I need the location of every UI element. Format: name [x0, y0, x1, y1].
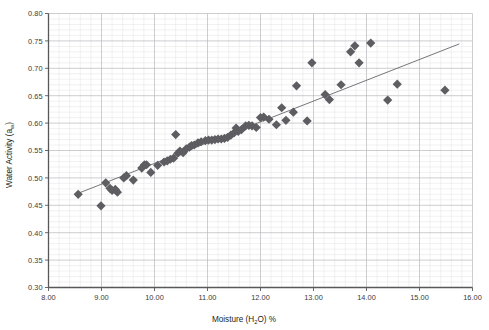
y-tick-label: 0.30: [28, 283, 42, 292]
y-tick-label: 0.40: [28, 229, 42, 238]
chart-canvas: 8.009.0010.0011.0012.0013.0014.0015.0016…: [0, 0, 489, 330]
x-tick-label: 8.00: [41, 293, 55, 302]
y-tick-label: 0.50: [28, 174, 42, 183]
x-tick-label: 13.00: [304, 293, 323, 302]
y-tick-label: 0.45: [28, 201, 42, 210]
x-tick-label: 9.00: [94, 293, 108, 302]
y-tick-label: 0.65: [28, 92, 42, 101]
y-tick-label: 0.35: [28, 256, 42, 265]
x-tick-label: 12.00: [251, 293, 270, 302]
x-axis-title: Moisture (H2O) %: [212, 315, 276, 325]
chart-background: [0, 0, 489, 330]
y-axis-title: Water Activity (aw): [5, 122, 15, 188]
x-tick-label: 11.00: [199, 293, 217, 302]
scatter-chart: 8.009.0010.0011.0012.0013.0014.0015.0016…: [0, 0, 489, 330]
x-tick-label: 14.00: [357, 293, 376, 302]
y-tick-label: 0.75: [28, 37, 42, 46]
y-tick-label: 0.70: [28, 64, 42, 73]
x-tick-label: 10.00: [145, 293, 164, 302]
x-tick-labels: 8.009.0010.0011.0012.0013.0014.0015.0016…: [41, 293, 481, 302]
y-tick-label: 0.55: [28, 146, 42, 155]
y-tick-label: 0.60: [28, 119, 42, 128]
y-tick-label: 0.80: [28, 9, 42, 18]
x-tick-label: 15.00: [410, 293, 429, 302]
x-tick-label: 16.00: [463, 293, 482, 302]
